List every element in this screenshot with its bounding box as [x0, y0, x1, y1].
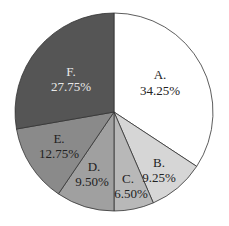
label-d-name: D. [88, 159, 101, 174]
slice-f [15, 13, 114, 129]
pie-chart: A. 34.25% B. 9.25% C. 6.50% D. 9.50% E. … [0, 0, 229, 226]
label-c-name: C. [122, 171, 134, 186]
label-a-pct: 34.25% [140, 83, 180, 98]
label-f-pct: 27.75% [51, 79, 91, 94]
label-e-name: E. [53, 131, 64, 146]
label-b-pct: 9.25% [142, 170, 176, 185]
label-d-pct: 9.50% [75, 174, 109, 189]
label-a-name: A. [154, 67, 167, 82]
label-b-name: B. [153, 155, 165, 170]
label-e-pct: 12.75% [39, 146, 79, 161]
label-f-name: F. [66, 64, 75, 79]
label-c-pct: 6.50% [114, 186, 148, 201]
